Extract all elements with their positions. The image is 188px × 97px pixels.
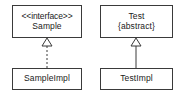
hollow-triangle-arrowhead-icon: [131, 38, 141, 46]
class-box-test[interactable]: Test {abstract}: [100, 5, 173, 38]
uml-class-diagram: <<interface>> Sample Test {abstract} Sam…: [0, 0, 188, 97]
class-box-sample[interactable]: <<interface>> Sample: [12, 5, 82, 38]
class-box-test-impl[interactable]: TestImpl: [100, 68, 173, 90]
class-modifier-test: {abstract}: [118, 22, 155, 31]
class-box-sample-impl[interactable]: SampleImpl: [12, 68, 82, 90]
generalization-connector-test: [125, 37, 147, 69]
class-name-sample-impl: SampleImpl: [24, 74, 70, 83]
class-name-sample: Sample: [32, 22, 61, 31]
class-name-test-impl: TestImpl: [120, 74, 152, 83]
realization-connector-sample: [36, 37, 58, 69]
hollow-triangle-arrowhead-icon: [42, 38, 52, 46]
